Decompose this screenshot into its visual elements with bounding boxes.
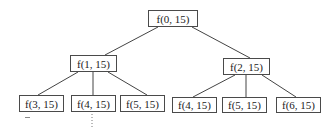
node-root: f(0, 15)	[148, 10, 198, 27]
edge-f1-f3	[38, 72, 78, 95]
node-leaf: f(3, 15)	[19, 95, 64, 112]
node-leaf: f(4, 15)	[71, 95, 116, 112]
node-leaf: f(5, 15)	[120, 95, 165, 112]
edge-f2-f4	[193, 75, 235, 97]
node-level1-right: f(2, 15)	[223, 58, 270, 75]
node-level1-left: f(1, 15)	[70, 55, 117, 72]
node-leaf: f(6, 15)	[276, 97, 321, 113]
node-leaf: f(4, 15)	[172, 97, 217, 113]
node-leaf: f(5, 15)	[222, 97, 267, 113]
edge-f0-f1	[105, 27, 158, 55]
edge-f2-f6	[262, 75, 296, 97]
edge-f0-f2	[192, 27, 250, 58]
edge-f1-f5	[108, 72, 147, 95]
